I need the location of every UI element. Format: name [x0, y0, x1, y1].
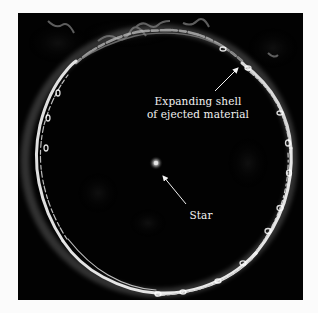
- central-star: [149, 156, 163, 170]
- shell-annotation-line2: of ejected material: [133, 108, 263, 121]
- nebula-image: Expanding shell of ejected material Star: [18, 13, 303, 300]
- shell-annotation: Expanding shell of ejected material: [133, 95, 263, 121]
- shell-annotation-line1: Expanding shell: [133, 95, 263, 108]
- star-annotation: Star: [186, 209, 216, 222]
- background-haze: [28, 19, 298, 237]
- annotation-arrows: [163, 68, 238, 204]
- nebula-graphic: [18, 13, 303, 300]
- shell-arrow: [215, 68, 238, 91]
- star-arrow: [163, 176, 186, 204]
